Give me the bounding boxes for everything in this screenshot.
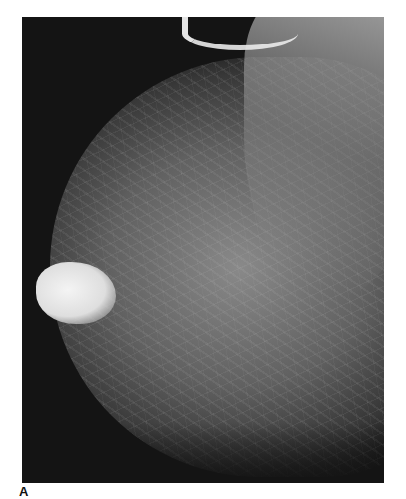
lower-shadow [22,423,384,483]
panel-label: A [19,484,28,499]
mammogram-image [22,17,384,483]
skin-fold [182,17,298,50]
